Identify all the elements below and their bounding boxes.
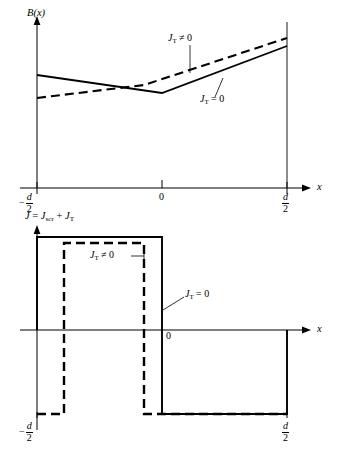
- current-density-plot: [0, 205, 343, 458]
- curve-jt-nonzero: [37, 38, 287, 98]
- annotation-jt-nonzero-top: JT ≠ 0: [168, 33, 192, 44]
- x-axis-label-top: x: [317, 182, 322, 193]
- leader-jt-zero: [163, 297, 184, 310]
- x-axis-label-bottom: x: [317, 324, 322, 335]
- tick-label-right-bottom: d2: [282, 421, 289, 443]
- annotation-jt-nonzero-bottom: JT ≠ 0: [90, 250, 114, 261]
- panel-current-density: J = Jscr + JT x JT ≠ 0 JT = 0 0 −d2: [0, 205, 343, 458]
- curve-jt-zero: [37, 46, 287, 93]
- curve-jt-zero: [37, 237, 287, 414]
- y-axis-label-top: B(x): [27, 8, 45, 19]
- x-axis: [20, 185, 311, 192]
- tick-label-left-bottom: −d2: [19, 421, 33, 443]
- tick-label-origin-bottom: 0: [166, 331, 171, 341]
- tick-label-origin-top: 0: [159, 192, 164, 202]
- annotation-jt-zero-bottom: JT = 0: [185, 289, 209, 300]
- y-axis-label-bottom: J = Jscr + JT: [25, 211, 74, 223]
- y-axis: [34, 16, 41, 188]
- physics-figure: B(x) x JT ≠ 0 JT = 0 −d2 0 d2: [0, 0, 343, 458]
- panel-magnetic-field: B(x) x JT ≠ 0 JT = 0 −d2 0 d2: [0, 0, 343, 228]
- annotation-jt-zero-top: JT = 0: [200, 94, 224, 105]
